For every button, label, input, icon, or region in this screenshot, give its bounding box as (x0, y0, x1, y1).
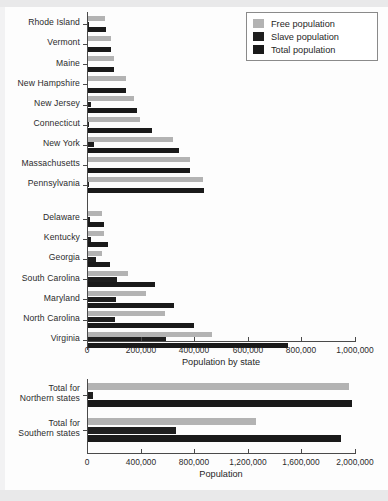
bar-free (88, 251, 102, 256)
bar-slave (88, 122, 89, 127)
y-axis-tick (83, 299, 87, 300)
bar-free (88, 56, 114, 61)
category-label: Vermont (47, 38, 80, 48)
x-axis-tick (301, 337, 302, 341)
x-axis-tick-label: 2,000,000 (336, 457, 373, 467)
category-label: Massachusetts (21, 159, 80, 169)
bar-total (88, 400, 352, 407)
bar-free (88, 36, 111, 41)
bar-free (88, 383, 349, 390)
x-axis-tick (355, 337, 356, 341)
bar-free (88, 311, 165, 316)
x-axis-tick (194, 337, 195, 341)
x-axis-tick-label: 0 (85, 457, 90, 467)
x-axis-tick-label: 1,200,000 (229, 457, 266, 467)
bar-slave (88, 277, 117, 282)
category-label: New Hampshire (18, 79, 80, 89)
x-axis-tick-label: 400,000 (179, 345, 209, 355)
plot-area-by-state: Rhode IslandVermontMaineNew HampshireNew… (0, 0, 388, 370)
bar-total (88, 323, 194, 328)
bar-slave (88, 257, 96, 262)
x-axis-line (87, 453, 356, 454)
chart-page: Free population Slave population Total p… (0, 0, 388, 501)
category-label: North Carolina (23, 314, 80, 324)
x-axis-tick (301, 449, 302, 453)
y-axis-tick (83, 259, 87, 260)
x-axis-title: Population by state (182, 357, 260, 367)
y-axis-tick (83, 105, 87, 106)
bar-total (88, 188, 204, 193)
bar-free (88, 117, 140, 122)
bar-slave (88, 427, 176, 434)
bar-total (88, 168, 190, 173)
bar-free (88, 211, 102, 216)
x-axis-tick-label: 0 (85, 345, 90, 355)
y-axis-tick (83, 44, 87, 45)
category-label: New Jersey (34, 99, 80, 109)
bar-free (88, 76, 126, 81)
y-axis-tick (83, 239, 87, 240)
category-label: Georgia (49, 253, 80, 263)
chart-regional-totals: Total forNorthern statesTotal forSouther… (0, 370, 388, 495)
x-axis-tick-label: 1,000,000 (336, 345, 373, 355)
y-axis-tick (83, 219, 87, 220)
y-axis-tick (83, 185, 87, 186)
bar-total (88, 262, 110, 267)
bar-free (88, 231, 104, 236)
bar-total (88, 27, 106, 32)
bar-free (88, 177, 203, 182)
x-axis-tick (248, 337, 249, 341)
bar-total (88, 303, 174, 308)
bar-total (88, 108, 137, 113)
bar-slave (88, 182, 89, 187)
bar-total (88, 148, 179, 153)
bar-slave (88, 392, 93, 399)
chart-population-by-state: Rhode IslandVermontMaineNew HampshireNew… (0, 0, 388, 370)
bar-total (88, 242, 108, 247)
bar-free (88, 137, 173, 142)
bar-total (88, 435, 341, 442)
category-label: Virginia (51, 334, 80, 344)
x-axis-tick-label: 800,000 (286, 345, 316, 355)
y-axis-tick (83, 320, 87, 321)
category-label: Connecticut (34, 119, 80, 129)
x-axis-tick (87, 449, 88, 453)
category-label: Delaware (43, 213, 80, 223)
bar-total (88, 222, 104, 227)
bar-total (88, 47, 111, 52)
bar-free (88, 291, 146, 296)
bar-slave (88, 317, 115, 322)
plot-area-regional-totals: Total forNorthern statesTotal forSouther… (0, 370, 388, 495)
bar-free (88, 157, 190, 162)
category-label: Kentucky (44, 233, 80, 243)
bar-total (88, 67, 114, 72)
category-label: Total forSouthern states (18, 419, 80, 438)
x-axis-tick (194, 449, 195, 453)
x-axis-tick-label: 800,000 (179, 457, 209, 467)
category-label: Maine (56, 59, 80, 69)
x-axis-title: Population (199, 469, 242, 479)
bar-free (88, 96, 134, 101)
bar-total (88, 88, 126, 93)
x-axis-tick-label: 200,000 (126, 345, 156, 355)
y-axis-tick (83, 84, 87, 85)
bar-slave (88, 142, 94, 147)
bar-total (88, 128, 152, 133)
bar-slave (88, 102, 91, 107)
y-axis-tick (83, 395, 87, 396)
category-label: Total forNorthern states (20, 384, 80, 403)
y-axis-tick (83, 430, 87, 431)
category-label: Maryland (44, 294, 80, 304)
x-axis-tick (248, 449, 249, 453)
x-axis-line (87, 341, 356, 342)
bar-free (88, 271, 128, 276)
bar-slave (88, 217, 90, 222)
x-axis-tick (87, 337, 88, 341)
bar-free (88, 418, 256, 425)
x-axis-tick (141, 337, 142, 341)
x-axis-tick (355, 449, 356, 453)
bar-free (88, 332, 212, 337)
x-axis-tick-label: 400,000 (126, 457, 156, 467)
bar-slave (88, 297, 116, 302)
y-axis-tick (83, 145, 87, 146)
